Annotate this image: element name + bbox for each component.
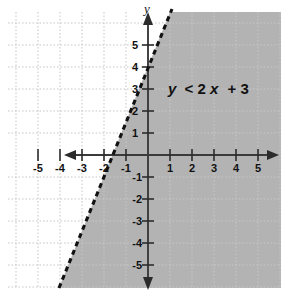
- graph-canvas: -5 -4 -3 -2 -1 1 2 3 4 5 5 4 3 2 1 -1 -2…: [0, 0, 285, 296]
- x-tick-label--3: -3: [77, 162, 87, 174]
- y-tick-label-5: 5: [132, 39, 138, 51]
- inequality-graph: -5 -4 -3 -2 -1 1 2 3 4 5 5 4 3 2 1 -1 -2…: [0, 0, 285, 296]
- x-tick-label-2: 2: [189, 162, 195, 174]
- x-tick-label--5: -5: [33, 162, 43, 174]
- inequality-label-tail: + 3: [227, 80, 248, 97]
- inequality-label-y: y: [167, 80, 177, 97]
- y-tick-label-1: 1: [132, 127, 138, 139]
- y-tick-label--4: -4: [132, 237, 143, 249]
- y-axis-label: y: [142, 1, 150, 16]
- inequality-label-x: x: [209, 80, 219, 97]
- x-tick-label-1: 1: [167, 162, 173, 174]
- y-tick-label--1: -1: [132, 171, 142, 183]
- y-tick-label-2: 2: [132, 105, 138, 117]
- inequality-label: y < 2 x + 3: [167, 80, 249, 97]
- y-tick-label--2: -2: [132, 193, 142, 205]
- y-tick-label-4: 4: [132, 61, 139, 73]
- y-tick-label--3: -3: [132, 215, 142, 227]
- inequality-label-rel: < 2: [185, 80, 206, 97]
- y-tick-label--5: -5: [132, 259, 142, 271]
- x-tick-label--4: -4: [55, 162, 66, 174]
- x-tick-label--1: -1: [121, 162, 131, 174]
- x-tick-label-4: 4: [233, 162, 240, 174]
- x-tick-label-5: 5: [255, 162, 261, 174]
- x-tick-label-3: 3: [211, 162, 217, 174]
